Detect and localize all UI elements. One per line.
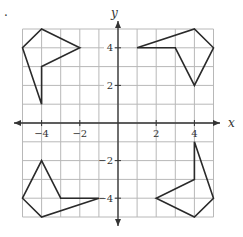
y-tick-label: 4 <box>107 42 113 53</box>
x-axis-label: x <box>228 116 235 130</box>
x-tick-label: 2 <box>153 128 159 139</box>
problem-marker: . <box>4 5 8 19</box>
x-axis-arrow-left-icon <box>14 120 21 126</box>
axes <box>14 21 220 226</box>
y-tick-label: −2 <box>98 155 113 166</box>
x-axis-arrow-right-icon <box>213 120 220 126</box>
coordinate-plane-figure: −4−22442−2−4 . x y <box>0 0 243 237</box>
x-tick-label: −4 <box>34 128 49 139</box>
y-axis-label: y <box>110 6 118 20</box>
y-axis-arrow-up-icon <box>115 21 121 28</box>
y-tick-label: 2 <box>107 80 113 91</box>
x-tick-label: −2 <box>72 128 87 139</box>
coordinate-plane: −4−22442−2−4 . x y <box>0 0 243 237</box>
x-tick-label: 4 <box>191 128 197 139</box>
y-axis-arrow-down-icon <box>115 219 121 226</box>
y-tick-label: −4 <box>98 193 113 204</box>
